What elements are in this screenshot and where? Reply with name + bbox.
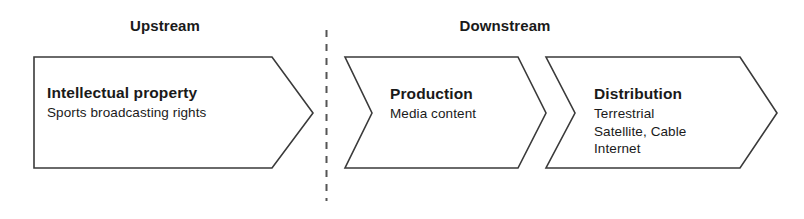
stage-sublines-intellectual-property: Sports broadcasting rights (47, 104, 206, 122)
stage-subline: Sports broadcasting rights (47, 104, 206, 122)
stage-title-production: Production (390, 84, 476, 103)
stage-sublines-distribution: Terrestrial Satellite, Cable Internet (594, 105, 686, 158)
stage-subline: Internet (594, 140, 686, 158)
stage-sublines-production: Media content (390, 105, 476, 123)
stage-title-distribution: Distribution (594, 84, 686, 103)
stage-label-intellectual-property: Intellectual property Sports broadcastin… (47, 83, 206, 122)
stage-subline: Media content (390, 105, 476, 123)
stage-subline: Terrestrial (594, 105, 686, 123)
stage-label-distribution: Distribution Terrestrial Satellite, Cabl… (594, 84, 686, 158)
stage-subline: Satellite, Cable (594, 123, 686, 141)
stage-label-production: Production Media content (390, 84, 476, 123)
stage-title-intellectual-property: Intellectual property (47, 83, 206, 102)
value-chain-diagram: Upstream Downstream Intellectual propert… (0, 0, 804, 219)
